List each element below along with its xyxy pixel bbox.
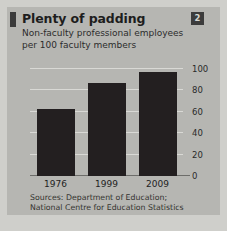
y-axis-tick-label: 100 xyxy=(192,64,208,74)
x-axis-tick-label: 2009 xyxy=(139,179,177,189)
chart-plot: 020406080100 197619992009 xyxy=(7,59,220,187)
chart-figure: Plenty of padding Non-faculty profession… xyxy=(7,7,220,215)
y-axis-tick-label: 40 xyxy=(192,128,203,138)
y-axis-tick-label: 60 xyxy=(192,107,203,117)
figure-number-badge: 2 xyxy=(191,12,204,25)
gridline xyxy=(30,68,183,69)
chart-source-line-2: National Centre for Education Statistics xyxy=(30,203,184,213)
plot-area: 020406080100 197619992009 xyxy=(30,69,183,176)
x-axis-tick-label: 1999 xyxy=(88,179,126,189)
y-axis-tick-label: 20 xyxy=(192,150,203,160)
y-axis-tick-label: 80 xyxy=(192,85,203,95)
chart-header: Plenty of padding Non-faculty profession… xyxy=(7,7,220,59)
bar xyxy=(88,83,126,176)
chart-source: Sources: Department of Education; Nation… xyxy=(30,193,184,212)
bar xyxy=(139,72,177,176)
chart-subtitle-line-2: per 100 faculty members xyxy=(22,40,183,52)
bar xyxy=(37,109,75,176)
x-axis-tick-label: 1976 xyxy=(37,179,75,189)
page-title: Plenty of padding xyxy=(22,11,145,26)
title-marker xyxy=(10,12,16,27)
y-axis-tick-label: 0 xyxy=(192,171,197,181)
chart-subtitle-line-1: Non-faculty professional employees xyxy=(22,28,183,40)
chart-subtitle: Non-faculty professional employees per 1… xyxy=(22,28,183,51)
chart-source-line-1: Sources: Department of Education; xyxy=(30,193,184,203)
